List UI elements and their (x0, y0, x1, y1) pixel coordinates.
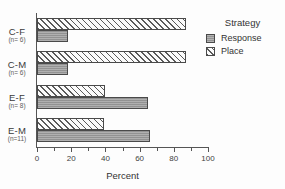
y-axis-category-count-0: (n= 6) (0, 37, 34, 44)
y-axis-category-label-3: E-M (n=11) (0, 126, 34, 143)
x-axis-title: Percent (36, 170, 209, 181)
y-axis-category-count-3: (n=11) (0, 136, 34, 143)
y-axis-category-name-0: C-F (0, 27, 34, 37)
x-axis-minor-tick-30 (88, 148, 89, 151)
bar-response-1 (37, 63, 68, 75)
bar-place-3 (37, 118, 104, 130)
x-axis-tick-label-20: 20 (59, 154, 83, 163)
bar-place-0 (37, 18, 186, 30)
y-axis-category-label-1: C-M (n= 6) (0, 60, 34, 77)
legend-title: Strategy (206, 17, 285, 28)
x-axis-tick-80 (174, 148, 175, 152)
bar-response-2 (37, 97, 148, 109)
legend: Strategy Response Place (206, 17, 285, 59)
x-axis-tick-40 (105, 148, 106, 152)
y-axis-category-count-2: (n= 8) (0, 103, 34, 110)
bar-response-0 (37, 30, 68, 42)
x-axis-tick-20 (71, 148, 72, 152)
x-axis-tick-60 (140, 148, 141, 152)
y-axis-category-name-3: E-M (0, 126, 34, 136)
x-axis-tick-label-0: 0 (25, 154, 49, 163)
legend-item-response[interactable]: Response (206, 33, 285, 43)
y-axis-category-name-2: E-F (0, 93, 34, 103)
bar-group-2 (37, 81, 208, 114)
y-axis-category-name-1: C-M (0, 60, 34, 70)
plot-area (37, 14, 208, 147)
bar-group-1 (37, 47, 208, 80)
x-axis-tick-label-60: 60 (128, 154, 152, 163)
legend-label-place: Place (221, 46, 244, 56)
chart-figure: C-F (n= 6) C-M (n= 6) E-F (n= 8) E-M (n=… (0, 0, 285, 189)
x-axis-minor-tick-50 (123, 148, 124, 151)
x-axis-tick-100 (208, 148, 209, 152)
x-axis-minor-tick-10 (54, 148, 55, 151)
x-axis-minor-tick-70 (157, 148, 158, 151)
legend-swatch-place-icon (206, 47, 215, 56)
y-axis-category-count-1: (n= 6) (0, 70, 34, 77)
legend-item-place[interactable]: Place (206, 46, 285, 56)
legend-label-response: Response (221, 33, 262, 43)
bar-group-3 (37, 114, 208, 147)
x-axis-tick-label-100: 100 (196, 154, 220, 163)
bar-group-0 (37, 14, 208, 47)
y-axis-category-label-0: C-F (n= 6) (0, 27, 34, 44)
y-axis-category-label-2: E-F (n= 8) (0, 93, 34, 110)
x-axis-tick-label-80: 80 (162, 154, 186, 163)
x-axis-tick-0 (37, 148, 38, 152)
legend-swatch-response-icon (206, 34, 215, 43)
x-axis-minor-tick-90 (191, 148, 192, 151)
x-axis-tick-label-40: 40 (93, 154, 117, 163)
bar-place-2 (37, 85, 105, 97)
bar-place-1 (37, 51, 186, 63)
bar-response-3 (37, 130, 150, 142)
